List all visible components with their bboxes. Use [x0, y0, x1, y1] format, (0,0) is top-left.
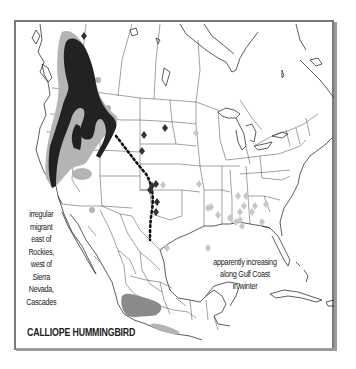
range-map: [0, 0, 356, 369]
gulf-coast-note: apparently increasing along Gulf Coast i…: [198, 256, 292, 292]
note-line: irregular: [20, 208, 63, 221]
note-line: along Gulf Coast: [198, 268, 292, 280]
note-line: Cascades: [20, 296, 63, 309]
note-line: apparently increasing: [198, 256, 292, 268]
note-line: east of: [20, 233, 63, 246]
note-line: west of: [20, 258, 63, 271]
west-migrant-note: irregular migrant east of Rockies, west …: [20, 208, 63, 308]
note-line: in winter: [198, 280, 292, 292]
note-line: Sierra: [20, 271, 63, 284]
map-title: CALLIOPE HUMMINGBIRD: [27, 326, 135, 338]
vagrant-records-light: [160, 129, 269, 252]
note-line: Nevada,: [20, 283, 63, 296]
note-line: Rockies,: [20, 246, 63, 259]
note-line: migrant: [20, 221, 63, 234]
